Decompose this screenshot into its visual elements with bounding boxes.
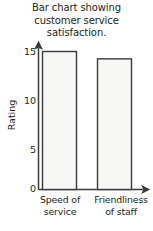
bar-speed-of-service <box>43 52 77 190</box>
bar-chart-figure: Bar chart showing customer service satis… <box>0 0 153 231</box>
x-category-label-line-1: Speed of <box>30 194 90 206</box>
x-category-label-speed-of-service: Speed of service <box>30 194 90 217</box>
y-axis-title: Rating <box>7 87 17 143</box>
bar-friendliness-of-staff <box>98 59 132 190</box>
y-tick-label-0: 0 <box>14 184 36 194</box>
y-tick-label-10: 10 <box>14 96 36 106</box>
x-category-label-line-2: of staff <box>89 206 153 218</box>
x-category-label-line-1: Friendliness <box>89 194 153 206</box>
x-category-label-friendliness-of-staff: Friendliness of staff <box>89 194 153 217</box>
y-tick-label-15: 15 <box>14 47 36 57</box>
x-category-label-line-2: service <box>30 206 90 218</box>
y-tick-label-5: 5 <box>14 145 36 155</box>
